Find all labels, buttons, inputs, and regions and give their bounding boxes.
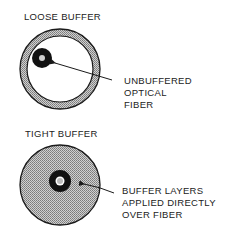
tight-callout-line-3: OVER FIBER (122, 209, 183, 220)
tight-buffer-title: TIGHT BUFFER (25, 128, 98, 139)
tight-buffer-cross-section (20, 145, 114, 225)
loose-buffer-cross-section (20, 29, 112, 109)
loose-buffer-tube-bore (27, 36, 93, 102)
loose-callout-line-1: UNBUFFERED (124, 75, 192, 86)
loose-fiber-core (39, 55, 45, 61)
loose-buffer-title: LOOSE BUFFER (24, 11, 101, 22)
tight-callout-line-1: BUFFER LAYERS (122, 185, 203, 196)
loose-callout-line-3: FIBER (124, 99, 153, 110)
tight-callout-line-2: APPLIED DIRECTLY (122, 197, 216, 208)
loose-callout-line-2: OPTICAL (124, 87, 167, 98)
tight-fiber-core (57, 178, 63, 184)
